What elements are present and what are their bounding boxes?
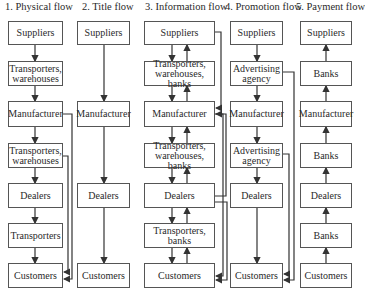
promotion-dealers-box: Dealers bbox=[230, 183, 283, 208]
payment-banks-box-3: Banks bbox=[300, 223, 352, 248]
info-customers-box: Customers bbox=[144, 263, 215, 288]
info-transporters-warehouses-banks-box-2: Transporters, warehouses, banks bbox=[144, 143, 215, 168]
physical-suppliers-box: Suppliers bbox=[8, 21, 63, 45]
column-title-title-flow: 2. Title flow bbox=[82, 1, 134, 12]
payment-manufacturer-box: Manufacturer bbox=[300, 101, 352, 127]
promotion-manufacturer-box: Manufacturer bbox=[230, 101, 283, 127]
column-title-payment-flow: 5. Payment flow bbox=[296, 1, 365, 12]
column-title-information-flow: 3. Information flow bbox=[145, 1, 228, 12]
promotion-suppliers-box: Suppliers bbox=[230, 21, 283, 45]
payment-customers-box: Customers bbox=[300, 263, 352, 288]
payment-dealers-box: Dealers bbox=[300, 183, 352, 208]
promotion-advertising-agency-box: Advertising agency bbox=[230, 61, 283, 86]
physical-customers-box: Customers bbox=[8, 263, 63, 288]
title-suppliers-box: Suppliers bbox=[77, 21, 130, 45]
title-manufacturer-box: Manufacturer bbox=[77, 101, 130, 127]
promotion-customers-box: Customers bbox=[230, 263, 283, 288]
title-dealers-box: Dealers bbox=[77, 183, 130, 208]
column-title-promotion-flow: 4. Promotion flow bbox=[225, 1, 302, 12]
title-customers-box: Customers bbox=[77, 263, 130, 288]
info-dealers-box: Dealers bbox=[144, 183, 215, 208]
payment-banks-box: Banks bbox=[300, 61, 352, 86]
promotion-advertising-agency-box-2: Advertising agency bbox=[230, 143, 283, 168]
physical-transporters-box: Transporters bbox=[8, 223, 63, 248]
physical-dealers-box: Dealers bbox=[8, 183, 63, 208]
physical-transporters-warehouses-box-2: Transporters, warehouses bbox=[8, 143, 63, 168]
payment-banks-box-2: Banks bbox=[300, 143, 352, 168]
info-transporters-banks-box: Transporters, banks bbox=[144, 223, 215, 248]
physical-manufacturer-box: Manufacturer bbox=[8, 101, 63, 127]
info-transporters-warehouses-banks-box: Transporters, warehouses, banks bbox=[144, 61, 215, 86]
info-manufacturer-box: Manufacturer bbox=[144, 101, 215, 127]
payment-suppliers-box: Suppliers bbox=[300, 21, 352, 45]
info-suppliers-box: Suppliers bbox=[144, 21, 215, 45]
column-title-physical-flow: 1. Physical flow bbox=[5, 1, 73, 12]
physical-transporters-warehouses-box: Transporters, warehouses bbox=[8, 61, 63, 86]
